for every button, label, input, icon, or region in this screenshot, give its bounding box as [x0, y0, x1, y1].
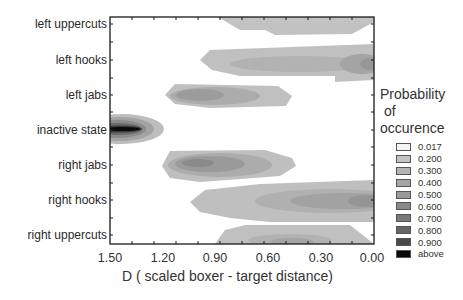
x-tick-label: 0.00	[360, 251, 384, 265]
legend-value: 0.200	[418, 153, 442, 164]
legend-swatch	[396, 226, 411, 234]
legend: 0.017 0.200 0.300 0.400 0.500 0.600 0.70…	[396, 141, 444, 260]
legend-value: 0.600	[418, 201, 442, 212]
contour-regions	[80, 17, 405, 246]
legend-value: 0.300	[418, 165, 442, 176]
legend-swatch	[396, 238, 411, 246]
region-left-uppercuts	[218, 17, 374, 35]
legend-swatch	[396, 179, 411, 187]
x-axis-label: D ( scaled boxer - target distance)	[122, 268, 333, 284]
legend-value: 0.800	[418, 225, 442, 236]
legend-item: 0.017	[396, 141, 444, 153]
region-left-hooks	[200, 44, 384, 82]
legend-swatch	[396, 250, 411, 258]
legend-swatch	[396, 214, 411, 222]
y-label-right-uppercuts: right uppercuts	[28, 229, 107, 241]
x-tick-label: 1.20	[151, 251, 175, 265]
y-label-right-jabs: right jabs	[58, 159, 107, 171]
y-label-inactive-state: inactive state	[37, 124, 107, 136]
region-left-jabs	[165, 84, 292, 108]
legend-item: 0.200	[396, 153, 444, 165]
y-label-left-jabs: left jabs	[66, 89, 107, 101]
legend-item: 0.300	[396, 165, 444, 177]
legend-swatch	[396, 202, 411, 210]
legend-value: 0.017	[418, 141, 442, 152]
legend-swatch	[396, 143, 411, 151]
region-right-uppercuts	[215, 225, 374, 246]
legend-item: 0.700	[396, 212, 444, 224]
legend-value: 0.400	[418, 177, 442, 188]
legend-item: 0.900	[396, 236, 444, 248]
legend-swatch	[396, 155, 411, 163]
legend-swatch	[396, 191, 411, 199]
legend-title-line: occurence	[380, 120, 445, 137]
x-tick-label: 0.60	[256, 251, 280, 265]
legend-value: above	[418, 248, 444, 259]
legend-item: 0.600	[396, 200, 444, 212]
contour-plot	[0, 0, 463, 300]
legend-item: above	[396, 248, 444, 260]
legend-item: 0.500	[396, 189, 444, 201]
legend-swatch	[396, 167, 411, 175]
y-label-left-hooks: left hooks	[56, 54, 107, 66]
legend-title-line: Probability	[380, 86, 445, 103]
legend-title: Probability of occurence	[380, 86, 445, 137]
region-right-jabs	[162, 150, 296, 182]
legend-value: 0.700	[418, 213, 442, 224]
legend-item: 0.800	[396, 224, 444, 236]
legend-value: 0.500	[418, 189, 442, 200]
y-label-right-hooks: right hooks	[48, 194, 107, 206]
x-tick-label: 0.30	[309, 251, 333, 265]
legend-value: 0.900	[418, 237, 442, 248]
legend-title-line: of	[380, 103, 445, 120]
x-tick-label: 0.90	[203, 251, 227, 265]
y-label-left-uppercuts: left uppercuts	[35, 18, 107, 30]
legend-item: 0.400	[396, 177, 444, 189]
region-right-hooks	[190, 180, 405, 222]
x-tick-label: 1.50	[98, 251, 122, 265]
